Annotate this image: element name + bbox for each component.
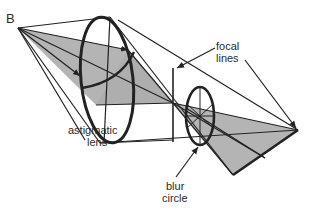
blur-circle xyxy=(186,87,214,145)
label-point-b: B xyxy=(6,11,15,26)
blur-arrow xyxy=(176,147,198,177)
label-blur: blur xyxy=(166,180,185,192)
label-circle: circle xyxy=(162,192,188,204)
label-lens: lens xyxy=(87,136,108,148)
focal-arrow-2 xyxy=(245,60,296,128)
label-astigmatic: astigmatic xyxy=(68,124,118,136)
focal-arrow-1 xyxy=(177,48,215,68)
label-lines: lines xyxy=(216,52,239,64)
diagram-canvas: B astigmatic lens focal lines blur circl… xyxy=(0,0,313,210)
label-focal: focal xyxy=(216,40,239,52)
